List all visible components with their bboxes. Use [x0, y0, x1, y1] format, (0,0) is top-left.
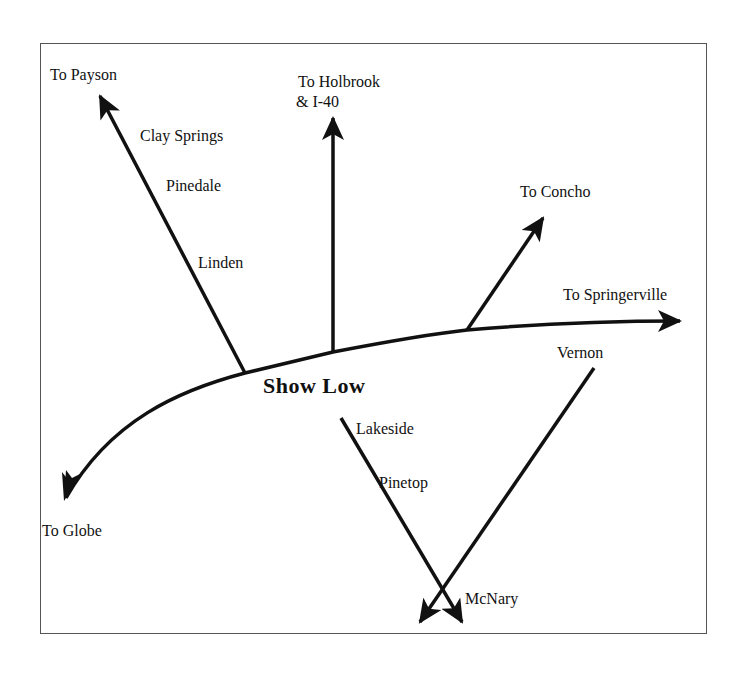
- town-pinetop: Pinetop: [379, 474, 428, 492]
- label-to-holbrook: To Holbrook: [298, 73, 380, 91]
- vernon-road: [420, 368, 594, 622]
- label-to-concho: To Concho: [520, 183, 590, 201]
- road-network: [0, 0, 744, 675]
- label-to-payson: To Payson: [50, 66, 117, 84]
- map-title-show-low: Show Low: [263, 373, 365, 399]
- town-pinedale: Pinedale: [166, 177, 221, 195]
- concho-road: [467, 218, 543, 330]
- label-to-globe: To Globe: [42, 522, 102, 540]
- pinetop-road: [341, 418, 462, 622]
- town-mcnary: McNary: [465, 590, 518, 608]
- town-linden: Linden: [198, 254, 243, 272]
- label-i40: & I-40: [296, 93, 339, 111]
- label-to-springerville: To Springerville: [563, 286, 667, 304]
- town-vernon: Vernon: [557, 344, 603, 362]
- town-clay-springs: Clay Springs: [140, 127, 223, 145]
- town-lakeside: Lakeside: [356, 420, 414, 438]
